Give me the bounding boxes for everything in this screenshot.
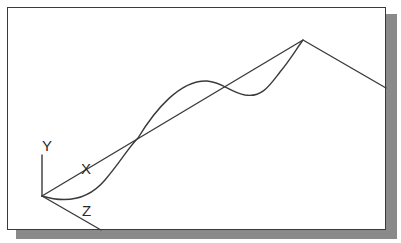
- polyline: [42, 40, 386, 196]
- y-axis-label: Y: [42, 137, 52, 154]
- z-axis-label: Z: [82, 202, 91, 219]
- drawing-canvas: Y X Z: [0, 0, 401, 243]
- x-axis-label: X: [81, 160, 91, 177]
- z-axis-icon: [42, 196, 101, 230]
